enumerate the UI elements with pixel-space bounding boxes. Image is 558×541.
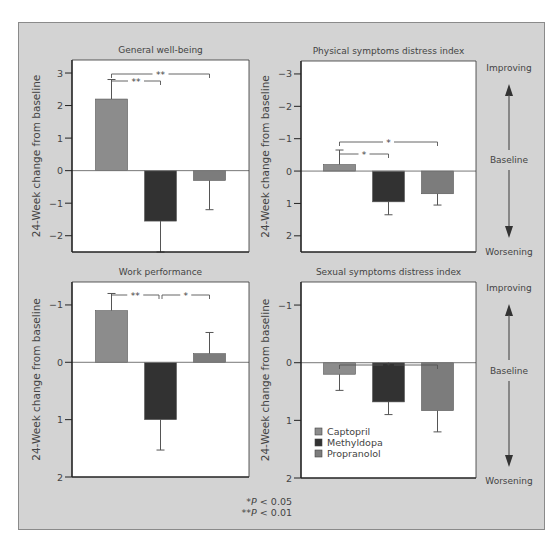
y-tick-label: 3 xyxy=(57,68,63,79)
legend-swatch-methyldopa xyxy=(315,439,322,446)
baseline-label-bottom: Baseline xyxy=(490,366,529,376)
significance-label: * xyxy=(386,361,391,371)
improving-label-bottom: Improving xyxy=(486,283,531,293)
chart-title: Sexual symptoms distress index xyxy=(316,267,462,277)
bar-propranolol xyxy=(422,363,454,411)
y-tick-label: 0 xyxy=(57,357,63,368)
legend-swatch-propranolol xyxy=(315,450,322,457)
y-axis-label: 24-Week change from baseline xyxy=(30,75,42,238)
legend-label: Propranolol xyxy=(327,448,381,459)
y-axis-label: 24-Week change from baseline xyxy=(30,298,42,461)
y-tick-label: 0 xyxy=(286,166,292,177)
y-tick-label: 1 xyxy=(57,414,63,425)
y-axis-label: 24-Week change from baseline xyxy=(259,75,271,238)
y-tick-label: −3 xyxy=(278,68,292,79)
y-tick-label: 2 xyxy=(57,472,63,483)
chart-title: General well-being xyxy=(118,45,203,55)
y-tick-label: 1 xyxy=(286,198,292,209)
legend-swatch-captopril xyxy=(315,428,322,435)
significance-label: * xyxy=(184,291,189,301)
y-tick-label: 1 xyxy=(286,415,292,426)
significance-label: * xyxy=(386,138,391,148)
chart-title: Physical symptoms distress index xyxy=(313,46,465,56)
bar-propranolol xyxy=(422,171,454,194)
significance-label: ** xyxy=(132,77,142,87)
y-tick-label: −1 xyxy=(278,133,292,144)
significance-note-line2: **P < 0.01 xyxy=(242,507,292,518)
bar-methyldopa xyxy=(145,171,177,221)
bar-captopril xyxy=(96,311,128,363)
legend-label: Methyldopa xyxy=(327,437,383,448)
y-tick-label: 2 xyxy=(57,100,63,111)
y-tick-label: −1 xyxy=(49,299,63,310)
improving-label-top: Improving xyxy=(486,63,531,73)
significance-note: *P < 0.05 **P < 0.01 xyxy=(242,496,292,518)
y-tick-label: 2 xyxy=(286,230,292,241)
bar-methyldopa xyxy=(145,362,177,419)
y-tick-label: 1 xyxy=(57,133,63,144)
significance-label: * xyxy=(362,150,367,160)
bar-captopril xyxy=(96,99,128,171)
bar-propranolol xyxy=(194,171,226,181)
y-tick-label: −1 xyxy=(49,198,63,209)
baseline-label-top: Baseline xyxy=(490,155,529,165)
significance-label: ** xyxy=(156,70,166,80)
y-tick-label: 0 xyxy=(286,357,292,368)
y-axis-label: 24-Week change from baseline xyxy=(259,299,271,462)
significance-note-line1: *P < 0.05 xyxy=(246,496,292,507)
legend-label: Captopril xyxy=(327,426,370,437)
bar-methyldopa xyxy=(373,171,405,202)
worsening-label-bottom: Worsening xyxy=(485,476,532,486)
bar-propranolol xyxy=(194,354,226,363)
y-tick-label: 0 xyxy=(57,165,63,176)
significance-label: ** xyxy=(131,291,141,301)
y-tick-label: 2 xyxy=(286,473,292,484)
figure-canvas: General well-being24-Week change from ba… xyxy=(0,0,558,541)
bar-captopril xyxy=(324,165,356,171)
y-tick-label: −2 xyxy=(278,101,292,112)
y-tick-label: −2 xyxy=(49,230,63,241)
chart-title: Work performance xyxy=(119,267,203,277)
worsening-label-top: Worsening xyxy=(485,247,532,257)
y-tick-label: −1 xyxy=(278,300,292,311)
